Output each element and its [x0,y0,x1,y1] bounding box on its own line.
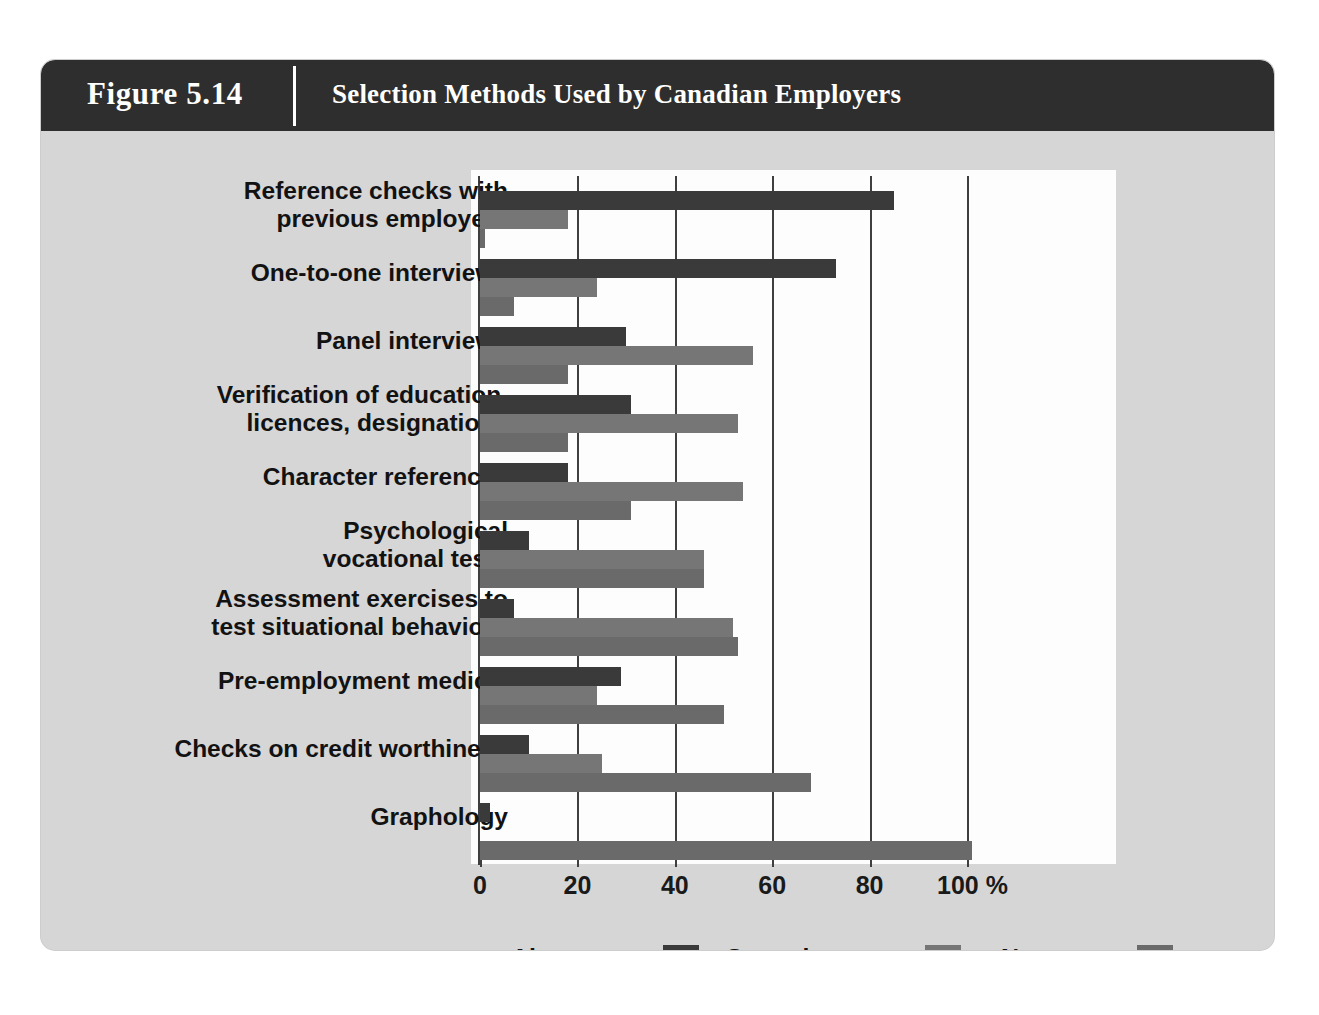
legend-entry-always[interactable]: Always use [511,940,699,950]
bar-row: Graphology [41,803,1274,860]
bar-always [480,395,631,414]
bar-sometimes [480,414,738,433]
bar-row: One-to-one interviews [41,259,1274,316]
figure-title: Selection Methods Used by Canadian Emplo… [332,79,901,110]
bar-sometimes [480,686,597,705]
header-divider [293,66,296,126]
legend-swatch-sometimes [925,945,961,951]
bar-never [480,433,568,452]
bar-never [480,841,972,860]
bar-never [480,705,724,724]
legend-swatch-always [663,945,699,951]
bar-always [480,735,529,754]
bar-row: Verification of education, licences, des… [41,395,1274,452]
bar-row: Assessment exercises to test situational… [41,599,1274,656]
bar-always [480,463,568,482]
category-label: Character references [88,463,508,491]
legend-label-always: Always use [511,944,647,951]
bar-always [480,327,626,346]
figure-number: Figure 5.14 [87,76,243,112]
legend-entry-sometimes[interactable]: Sometimes use [726,940,961,950]
bar-always [480,803,490,822]
bar-row: Pre-employment medical [41,667,1274,724]
bar-row: Panel interviews [41,327,1274,384]
category-label: Psychological vocational tests [88,517,508,573]
tick-label-100: 100 % [937,871,1047,900]
legend-label-never: Never use [1001,944,1121,951]
bar-sometimes [480,346,753,365]
tick-label-0: 0 [450,871,510,900]
tick-label-20: 20 [547,871,607,900]
bar-sometimes [480,210,568,229]
bar-row: Reference checks with previous employers [41,191,1274,248]
figure-header-bar: Figure 5.14 Selection Methods Used by Ca… [41,60,1274,131]
category-label: Verification of education, licences, des… [88,381,508,437]
tick-label-60: 60 [742,871,802,900]
legend-entry-never[interactable]: Never use [1001,940,1173,950]
category-label: Pre-employment medical [88,667,508,695]
bar-never [480,229,485,248]
bar-sometimes [480,618,733,637]
legend-swatch-never [1137,945,1173,951]
bar-row: Character references [41,463,1274,520]
bar-sometimes [480,482,743,501]
legend-label-sometimes: Sometimes use [726,944,909,951]
bar-sometimes [480,550,704,569]
category-label: Reference checks with previous employers [88,177,508,233]
bar-always [480,259,836,278]
bar-sometimes [480,278,597,297]
category-label: Checks on credit worthiness [88,735,508,763]
bar-always [480,599,514,618]
category-label: Panel interviews [88,327,508,355]
bar-always [480,667,621,686]
tick-label-40: 40 [645,871,705,900]
bar-never [480,569,704,588]
bar-never [480,637,738,656]
category-label: Graphology [88,803,508,831]
bar-row: Checks on credit worthiness [41,735,1274,792]
bar-always [480,531,529,550]
chart-legend: Always useSometimes useNever use [41,940,1274,950]
category-label: Assessment exercises to test situational… [88,585,508,641]
tick-label-80: 80 [840,871,900,900]
figure-card: Figure 5.14 Selection Methods Used by Ca… [41,60,1274,950]
bar-row: Psychological vocational tests [41,531,1274,588]
bar-always [480,191,894,210]
bar-never [480,773,811,792]
category-label: One-to-one interviews [88,259,508,287]
bar-never [480,297,514,316]
bar-sometimes [480,754,602,773]
